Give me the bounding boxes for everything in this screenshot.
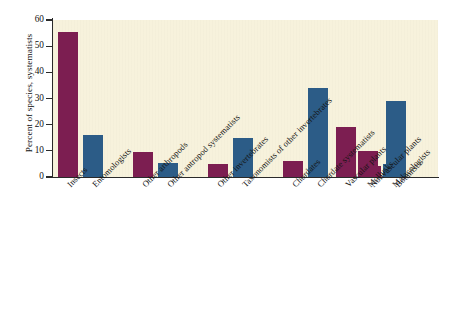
x-axis-line: [52, 177, 439, 178]
bar-other-invertebrates: [208, 164, 228, 177]
y-axis-tick-label: 60: [4, 15, 44, 24]
y-axis-tick-label: 50: [4, 41, 44, 50]
y-axis-tick-label: 20: [4, 120, 44, 129]
y-axis-tick: [46, 124, 53, 125]
bar-insects: [58, 32, 78, 177]
bar-nonvascular-plants: [361, 166, 381, 177]
bar-vascular-plants: [336, 127, 356, 177]
y-axis-tick-label: 30: [4, 94, 44, 103]
y-axis-tick: [46, 176, 53, 177]
bar-entomologists: [83, 135, 103, 177]
bar-taxonomists-of-other-invertebrates: [233, 138, 253, 177]
y-axis-tick: [46, 150, 53, 151]
bar-other-arthropods: [133, 152, 153, 177]
y-axis-tick: [46, 19, 53, 20]
bar-botanists: [386, 101, 406, 177]
bar-series-container: [53, 20, 438, 177]
bar-chordates: [283, 161, 303, 177]
y-axis-tick: [46, 98, 53, 99]
y-axis-tick-label: 0: [4, 172, 44, 181]
bar-chordate-systematists: [308, 88, 328, 177]
y-axis-tick: [46, 72, 53, 73]
y-axis-tick-label: 10: [4, 146, 44, 155]
bar-other-antropod-systematists: [158, 163, 178, 177]
y-axis-tick-label: 40: [4, 67, 44, 76]
bar-chart-figure: Percent of species, systematists 0102030…: [0, 0, 456, 316]
y-axis-tick: [46, 46, 53, 47]
